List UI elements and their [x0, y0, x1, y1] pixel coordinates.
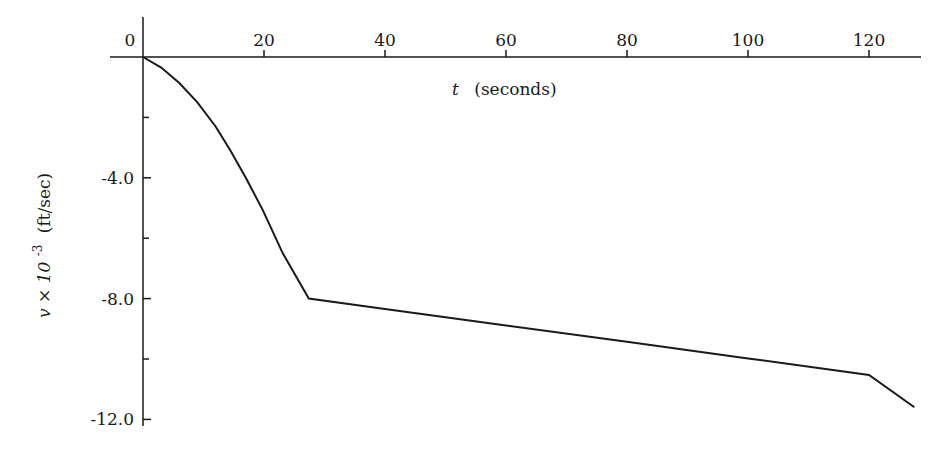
x-axis-title: t (seconds): [452, 79, 557, 99]
line-chart: 020406080100120 -4.0-8.0-12.0 t (seconds…: [0, 0, 946, 459]
y-ticks: -4.0-8.0-12.0: [90, 117, 151, 429]
y-tick-label: -4.0: [101, 168, 134, 188]
x-tick-label: 120: [853, 30, 885, 50]
x-tick-label: 40: [374, 30, 396, 50]
y-tick-label: -12.0: [90, 409, 134, 429]
x-tick-label: 60: [495, 30, 517, 50]
chart-container: 020406080100120 -4.0-8.0-12.0 t (seconds…: [0, 0, 946, 459]
x-ticks: 020406080100120: [125, 30, 886, 57]
velocity-curve: [143, 57, 914, 407]
y-axis-title: v × 10 -3 (ft/sec): [26, 173, 54, 318]
y-var: v × 10: [34, 262, 54, 318]
x-tick-label: 80: [616, 30, 638, 50]
x-tick-label: 100: [732, 30, 764, 50]
x-tick-label: 0: [125, 30, 136, 50]
x-tick-label: 20: [253, 30, 275, 50]
y-tick-label: -8.0: [101, 289, 134, 309]
